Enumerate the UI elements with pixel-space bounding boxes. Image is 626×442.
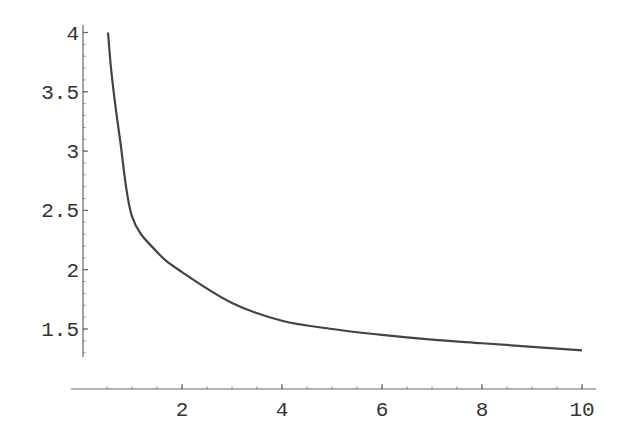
data-curve: [108, 33, 582, 351]
y-tick-label: 1.5: [41, 319, 79, 342]
y-axis: 1.522.533.54: [41, 23, 88, 358]
y-tick-label: 2.5: [41, 200, 79, 223]
line-chart: 1.522.533.54 246810: [0, 0, 626, 442]
y-tick-label: 2: [66, 260, 79, 283]
x-tick-label: 4: [276, 399, 289, 422]
x-tick-label: 2: [176, 399, 189, 422]
x-tick-label: 10: [569, 399, 594, 422]
x-tick-label: 8: [476, 399, 489, 422]
x-axis: 246810: [71, 384, 596, 422]
x-tick-label: 6: [376, 399, 389, 422]
y-tick-label: 4: [66, 23, 79, 46]
y-tick-label: 3: [66, 141, 79, 164]
y-tick-label: 3.5: [41, 82, 79, 105]
